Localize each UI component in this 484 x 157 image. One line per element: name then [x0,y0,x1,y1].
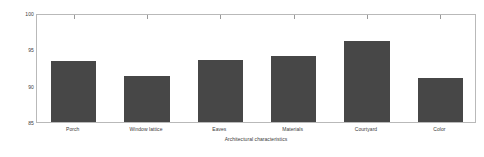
x-tick-mark-top [367,15,368,19]
x-tick-mark-top [74,15,75,19]
x-tick-label: Materials [282,126,303,132]
x-tick-label: Window lattice [130,126,163,132]
y-tick-label: 85 [28,120,34,126]
x-axis-tick-labels: PorchWindow latticeEavesMaterialsCourtya… [36,126,476,136]
y-tick-label: 90 [28,84,34,90]
x-tick-mark-top [294,15,295,19]
plot-area [36,14,476,123]
bar [198,60,243,122]
x-tick-label: Eaves [212,126,226,132]
x-tick-label: Courtyard [355,126,377,132]
bar [418,78,463,122]
x-tick-mark-top [147,15,148,19]
y-tick-label: 95 [28,47,34,53]
bar [124,76,169,122]
y-axis: Classification accuracy 859095100 [0,14,36,124]
bar-chart-figure: Classification accuracy 859095100 PorchW… [0,0,484,157]
x-tick-label: Color [433,126,445,132]
x-tick-mark-top [220,15,221,19]
x-tick-label: Porch [66,126,79,132]
x-tick-mark-top [440,15,441,19]
bar [51,61,96,122]
bar [271,56,316,122]
x-axis-title: Architectural characteristics [36,136,476,142]
bar [344,41,389,122]
y-tick-label: 100 [25,11,34,17]
